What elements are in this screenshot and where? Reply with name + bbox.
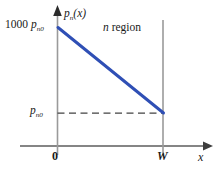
x-tick-label-width: W (157, 150, 168, 162)
hole-concentration-figure: pn(x) 1000 pn0 pn0 n region 0 W x (0, 0, 218, 170)
x-tick-label-origin: 0 (52, 150, 58, 162)
x-axis-label: x (198, 151, 203, 163)
peak-value-multiplier: 1000 (5, 18, 28, 30)
equilibrium-value-label: pn0 (30, 105, 43, 119)
peak-value-label: 1000 pn0 (5, 19, 44, 33)
x-axis-arrowhead (203, 141, 213, 150)
concentration-curve (58, 28, 164, 114)
equilibrium-value-subscript: n0 (36, 111, 43, 119)
region-word: region (112, 21, 141, 33)
y-axis-label-argument: (x) (73, 7, 86, 19)
y-axis-arrowhead (53, 5, 62, 16)
region-annotation: n region (103, 22, 141, 34)
y-axis-label: pn(x) (64, 8, 86, 22)
peak-value-subscript: n0 (37, 25, 44, 33)
